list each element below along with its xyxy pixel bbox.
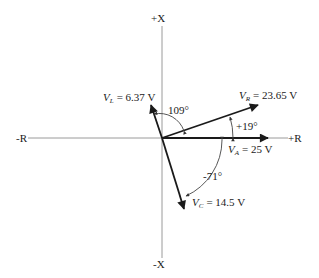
angle-label-19: +19° xyxy=(236,120,258,132)
arc-71 xyxy=(186,140,222,196)
label-pos-x: +X xyxy=(151,12,165,24)
vl-vector xyxy=(151,105,162,138)
angle-label-71: -71° xyxy=(203,170,222,182)
vc-vector xyxy=(162,138,184,209)
label-vl: VL= 6.37 V xyxy=(103,91,155,105)
label-neg-r: -R xyxy=(16,132,28,144)
phasor-diagram: +X -X -R +R VL= 6.37 V VR= 23.65 V VA= 2… xyxy=(0,0,319,278)
label-neg-x: -X xyxy=(153,258,165,270)
angle-label-109: 109° xyxy=(168,104,189,116)
label-va: VA= 25 V xyxy=(228,143,273,157)
label-pos-r: +R xyxy=(288,132,302,144)
label-vr: VR= 23.65 V xyxy=(239,89,297,103)
arc-19 xyxy=(230,117,233,138)
label-vc: VC= 14.5 V xyxy=(192,196,245,210)
